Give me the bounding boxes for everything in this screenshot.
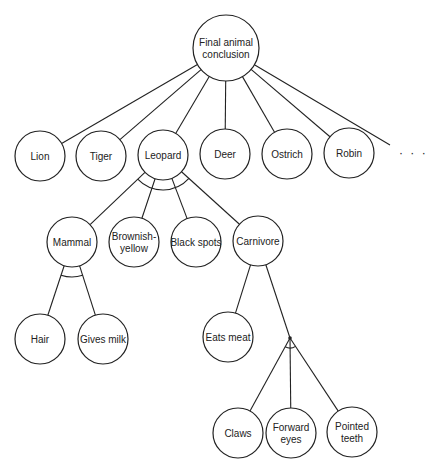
node-label: Carnivore [236,236,280,247]
node-pointedteeth: Pointedteeth [327,407,377,457]
node-label: conclusion [202,49,249,60]
node-label: Tiger [90,151,113,162]
and-arc-mammal [61,275,83,277]
junction-point [288,336,292,340]
node-ostrich: Ostrich [262,129,312,179]
edge-junction-pointedteeth [290,338,338,411]
continuation-ellipsis: · · · [399,146,428,160]
node-label: Gives milk [80,334,127,345]
edge-final-tiger [120,70,201,140]
node-label: Pointed [335,421,369,432]
tree-nodes: Final animalconclusionLionTigerLeopardDe… [15,15,377,458]
node-label: eyes [280,434,301,445]
node-brownish: Brownish-yellow [109,217,159,267]
node-label: Final animal [199,37,253,48]
node-mammal: Mammal [47,217,97,267]
edge-leopard-blackspots [172,178,187,218]
node-deer: Deer [200,129,250,179]
node-label: Black spots [170,237,221,248]
node-givesmilk: Gives milk [78,314,128,364]
node-label: Lion [31,151,50,162]
edge-final-leopard [176,76,210,133]
edge-leopard-carnivore [182,172,240,224]
edge-mammal-hair [48,266,64,316]
node-label: Claws [224,428,251,439]
node-eatsmeat: Eats meat [203,312,253,362]
node-label: Eats meat [205,332,250,343]
node-label: teeth [341,433,363,444]
node-robin: Robin [324,128,374,178]
node-label: Robin [336,148,362,159]
node-carnivore: Carnivore [233,216,283,266]
node-lion: Lion [15,131,65,181]
node-label: Ostrich [271,149,303,160]
node-label: Deer [214,149,236,160]
node-label: yellow [120,243,149,254]
node-label: Hair [31,334,50,345]
edge-carnivore-junction [266,265,290,338]
node-label: Leopard [145,150,182,161]
node-label: Forward [273,422,310,433]
node-forwardeyes: Forwardeyes [266,408,316,458]
edge-mammal-givesmilk [80,266,96,315]
and-or-tree-diagram: Final animalconclusionLionTigerLeopardDe… [0,0,431,468]
edge-carnivore-eatsmeat [235,265,250,313]
node-label: Brownish- [112,231,156,242]
node-leopard: Leopard [138,130,188,180]
node-blackspots: Black spots [170,217,221,267]
node-claws: Claws [213,408,263,458]
node-label: Mammal [53,237,91,248]
edge-junction-claws [250,338,290,411]
node-hair: Hair [15,314,65,364]
node-tiger: Tiger [76,131,126,181]
node-final: Final animalconclusion [193,15,259,81]
